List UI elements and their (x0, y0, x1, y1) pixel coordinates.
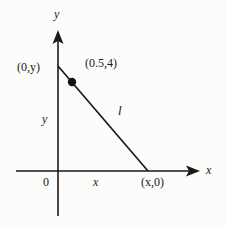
x-segment-label: x (93, 176, 98, 188)
x-intercept-label: (x,0) (141, 176, 164, 188)
point-marker (68, 78, 76, 86)
origin-label: 0 (43, 176, 49, 188)
point-coordinate-label: (0.5,4) (85, 57, 117, 69)
x-axis-label: x (206, 164, 211, 176)
y-intercept-label: (0,y) (17, 61, 40, 73)
coordinate-plane-diagram: y x (0,y) (0.5,4) l y x 0 (x,0) (0, 0, 226, 228)
diagram-canvas (0, 0, 226, 228)
line-label: l (118, 104, 122, 117)
y-axis-label: y (54, 8, 59, 20)
y-segment-label: y (42, 113, 47, 125)
